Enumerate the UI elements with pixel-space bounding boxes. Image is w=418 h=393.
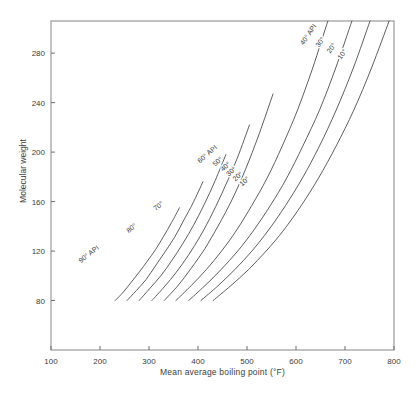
plot-frame — [51, 21, 394, 350]
curve-label: 10° — [336, 48, 348, 61]
y-tick-label: 120 — [32, 247, 46, 256]
x-axis-title: Mean average boiling point (°F) — [51, 367, 394, 377]
curve-label: 20° — [325, 41, 337, 54]
chart-canvas: 1002003004005006007008008012016020024028… — [0, 0, 418, 393]
x-tick-label: 100 — [44, 357, 58, 366]
curve-label: 30° — [314, 35, 326, 48]
y-tick-label: 200 — [32, 148, 46, 157]
y-tick-label: 280 — [32, 49, 46, 58]
curve-label: 80° — [125, 222, 138, 234]
y-tick-label: 80 — [36, 297, 45, 306]
molecular-weight-chart-figure: 1002003004005006007008008012016020024028… — [0, 0, 418, 393]
curve-label: 90° API — [77, 244, 100, 264]
curve-90-api — [115, 208, 179, 301]
curve-label: 70° — [152, 200, 165, 212]
y-tick-label: 160 — [32, 198, 46, 207]
y-axis-title: Molecular weight — [18, 91, 28, 251]
x-tick-label: 400 — [191, 357, 205, 366]
curve-80-api — [127, 182, 203, 301]
x-tick-label: 800 — [387, 357, 401, 366]
curve-70-api — [139, 155, 226, 301]
x-tick-label: 600 — [289, 357, 303, 366]
x-tick-label: 500 — [240, 357, 254, 366]
curve-10-api — [213, 21, 389, 301]
curve-60-api — [152, 125, 250, 301]
x-tick-label: 700 — [338, 357, 352, 366]
y-tick-label: 240 — [32, 99, 46, 108]
x-tick-label: 300 — [142, 357, 156, 366]
x-tick-label: 200 — [93, 357, 107, 366]
